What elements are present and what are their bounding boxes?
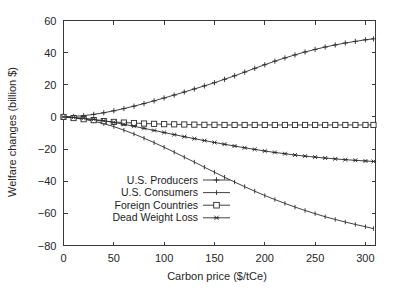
legend-label-dead-weight-loss: Dead Weight Loss bbox=[112, 211, 198, 223]
chart-legend: U.S. ProducersU.S. ConsumersForeign Coun… bbox=[112, 174, 230, 224]
series-u-s-consumers bbox=[64, 115, 374, 231]
series-dead-weight-loss bbox=[61, 115, 376, 163]
y-tick-label: 60 bbox=[44, 15, 56, 27]
plot-frame bbox=[64, 21, 376, 246]
y-tick-label: 0 bbox=[50, 111, 56, 123]
y-axis-title: Welfare changes (billion $) bbox=[6, 67, 18, 197]
y-tick-label: −20 bbox=[38, 143, 57, 155]
legend-label-u-s-producers: U.S. Producers bbox=[127, 174, 198, 186]
series-group bbox=[61, 36, 376, 231]
x-axis-title: Carbon price ($/tCe) bbox=[167, 270, 267, 282]
x-tick-label: 0 bbox=[60, 252, 66, 264]
series-foreign-countries bbox=[61, 114, 376, 127]
welfare-changes-line-chart: −80−60−40−200204060 050100150200250300 U… bbox=[0, 0, 395, 292]
series-u-s-producers bbox=[61, 36, 376, 119]
y-tick-label: −40 bbox=[38, 175, 57, 187]
y-tick-label: 40 bbox=[44, 47, 56, 59]
x-tick-label: 200 bbox=[256, 252, 274, 264]
y-tick-label: 20 bbox=[44, 79, 56, 91]
legend-label-u-s-consumers: U.S. Consumers bbox=[121, 186, 198, 198]
x-tick-label: 50 bbox=[108, 252, 120, 264]
x-tick-label: 150 bbox=[205, 252, 223, 264]
x-tick-label: 100 bbox=[155, 252, 173, 264]
x-axis-ticks: 050100150200250300 bbox=[60, 21, 374, 264]
x-tick-label: 250 bbox=[306, 252, 324, 264]
y-tick-label: −60 bbox=[38, 207, 57, 219]
chart-figure: −80−60−40−200204060 050100150200250300 U… bbox=[0, 0, 395, 292]
x-tick-label: 300 bbox=[356, 252, 374, 264]
y-tick-label: −80 bbox=[38, 240, 57, 252]
legend-label-foreign-countries: Foreign Countries bbox=[115, 199, 198, 211]
